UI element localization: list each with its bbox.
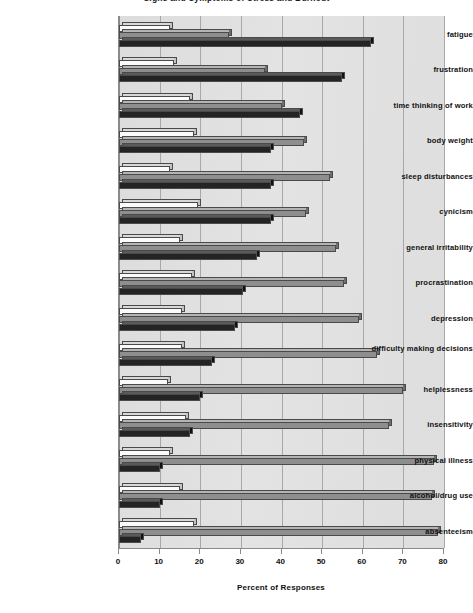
bar-side-face <box>265 65 268 72</box>
bar-side-face <box>306 207 309 214</box>
bar-series-black <box>119 75 342 82</box>
bar-front-face <box>119 430 190 437</box>
tick-label-0: 0 <box>103 557 133 566</box>
tick-label-80: 80 <box>428 557 458 566</box>
bar-side-face <box>168 376 171 383</box>
bar-side-face <box>170 163 173 170</box>
bar-series-black <box>119 40 371 47</box>
tick-label-50: 50 <box>306 557 336 566</box>
bar-series-black <box>119 217 271 224</box>
bar-series-black <box>119 430 190 437</box>
bar-series-black <box>119 501 160 508</box>
x-axis-title: Percent of Responses <box>118 583 444 592</box>
tick-label-30: 30 <box>225 557 255 566</box>
bar-front-face <box>119 75 342 82</box>
bar-front-face <box>119 465 160 472</box>
bar-side-face <box>186 412 189 419</box>
category-label: insensitivity <box>359 420 473 430</box>
bar-side-face <box>271 179 274 186</box>
bar-side-face <box>182 305 185 312</box>
tick-label-60: 60 <box>347 557 377 566</box>
bar-side-face <box>170 447 173 454</box>
category-label: procrastination <box>359 278 473 288</box>
bar-front-face <box>119 253 257 260</box>
tick-label-70: 70 <box>387 557 417 566</box>
tick-label-40: 40 <box>266 557 296 566</box>
bar-side-face <box>174 57 177 64</box>
bar-side-face <box>212 356 215 363</box>
bar-side-face <box>190 93 193 100</box>
bar-front-face <box>119 288 243 295</box>
category-label: general irritability <box>359 243 473 253</box>
bar-side-face <box>304 136 307 143</box>
bar-side-face <box>170 22 173 29</box>
bar-side-face <box>180 483 183 490</box>
tick-50 <box>321 548 322 554</box>
bar-front-face <box>119 111 300 118</box>
category-label: body weight <box>359 136 473 146</box>
bar-side-face <box>257 250 260 257</box>
bar-side-face <box>194 518 197 525</box>
bar-side-face <box>330 171 333 178</box>
bar-series-black <box>119 324 235 331</box>
bar-series-black <box>119 111 300 118</box>
bar-side-face <box>190 427 193 434</box>
bar-series-black <box>119 182 271 189</box>
bar-side-face <box>271 214 274 221</box>
category-label: frustration <box>359 65 473 75</box>
bar-side-face <box>182 341 185 348</box>
category-label: alcohol/drug use <box>359 491 473 501</box>
bar-side-face <box>194 128 197 135</box>
bar-front-face <box>119 146 271 153</box>
bar-series-black <box>119 359 212 366</box>
bar-side-face <box>271 143 274 150</box>
tick-60 <box>362 548 363 554</box>
bar-side-face <box>342 72 345 79</box>
bar-side-face <box>336 242 339 249</box>
bar-side-face <box>198 199 201 206</box>
bar-side-face <box>229 29 232 36</box>
bar-front-face <box>119 40 371 47</box>
bar-series-black <box>119 288 243 295</box>
bar-front-face <box>119 501 160 508</box>
bar-side-face <box>300 108 303 115</box>
tick-40 <box>281 548 282 554</box>
category-label: sleep disturbances <box>359 172 473 182</box>
bar-chart: fatiguefrustrationtime thinking of workb… <box>0 0 473 613</box>
category-label: difficulty making decisions <box>359 344 473 354</box>
bar-front-face <box>119 359 212 366</box>
bar-series-black <box>119 536 141 543</box>
bar-side-face <box>160 462 163 469</box>
category-label: fatigue <box>359 30 473 40</box>
bar-side-face <box>344 277 347 284</box>
bar-side-face <box>235 321 238 328</box>
tick-80 <box>443 548 444 554</box>
bar-series-black <box>119 146 271 153</box>
category-label: physical illness <box>359 456 473 466</box>
tick-0 <box>118 548 119 554</box>
tick-70 <box>402 548 403 554</box>
tick-label-10: 10 <box>144 557 174 566</box>
bar-front-face <box>119 324 235 331</box>
bar-side-face <box>141 533 144 540</box>
bar-front-face <box>119 394 200 401</box>
bar-series-black <box>119 253 257 260</box>
category-label: time thinking of work <box>359 101 473 111</box>
bar-side-face <box>282 100 285 107</box>
category-label: helplessness <box>359 385 473 395</box>
bar-series-black <box>119 394 200 401</box>
tick-label-20: 20 <box>184 557 214 566</box>
category-label: absenteeism <box>359 527 473 537</box>
category-label: cynicism <box>359 207 473 217</box>
category-label: depression <box>359 314 473 324</box>
tick-10 <box>159 548 160 554</box>
tick-30 <box>240 548 241 554</box>
bar-front-face <box>119 536 141 543</box>
bar-side-face <box>243 285 246 292</box>
bar-side-face <box>160 498 163 505</box>
bar-side-face <box>180 234 183 241</box>
tick-20 <box>199 548 200 554</box>
bar-series-black <box>119 465 160 472</box>
bar-side-face <box>192 270 195 277</box>
bar-side-face <box>200 391 203 398</box>
